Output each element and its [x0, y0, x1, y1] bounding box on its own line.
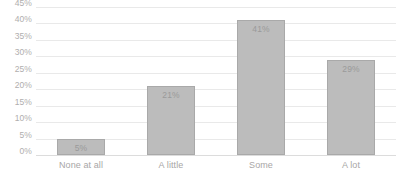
bar[interactable]: 41%	[237, 20, 285, 155]
y-axis-tick: 40%	[0, 15, 32, 24]
gridline-baseline	[36, 155, 396, 156]
bar[interactable]: 21%	[147, 86, 195, 155]
bar[interactable]: 5%	[57, 139, 105, 155]
x-axis-category-label: Some	[216, 160, 306, 171]
bar-slot: 41%	[237, 7, 285, 155]
bar-value-label: 21%	[148, 91, 194, 100]
bar-slot: 21%	[147, 7, 195, 155]
y-axis-tick: 10%	[0, 114, 32, 123]
y-axis-tick: 0%	[0, 147, 32, 156]
y-axis-tick: 30%	[0, 48, 32, 57]
bars-layer: 5% 21% 41% 29%	[36, 7, 396, 155]
x-axis: None at all A little Some A lot	[36, 160, 396, 178]
x-axis-category-label: A little	[126, 160, 216, 171]
y-axis: 45% 40% 35% 30% 25% 20% 15% 10% 5% 0%	[0, 0, 32, 162]
bar-value-label: 41%	[238, 25, 284, 34]
bar-value-label: 29%	[328, 65, 374, 74]
bar-chart: 45% 40% 35% 30% 25% 20% 15% 10% 5% 0% 5%	[0, 0, 398, 180]
bar-slot: 29%	[327, 7, 375, 155]
y-axis-tick: 45%	[0, 0, 32, 8]
y-axis-tick: 5%	[0, 131, 32, 140]
y-axis-tick: 25%	[0, 65, 32, 74]
bar-slot: 5%	[57, 7, 105, 155]
y-axis-tick: 35%	[0, 32, 32, 41]
x-axis-category-label: A lot	[306, 160, 396, 171]
y-axis-tick: 15%	[0, 98, 32, 107]
bar[interactable]: 29%	[327, 60, 375, 155]
y-axis-tick: 20%	[0, 81, 32, 90]
bar-value-label: 5%	[58, 144, 104, 153]
x-axis-category-label: None at all	[36, 160, 126, 171]
